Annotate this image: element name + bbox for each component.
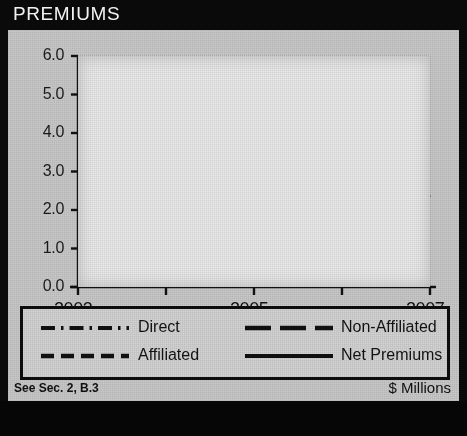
legend: DirectNon-AffiliatedAffiliatedNet Premiu… bbox=[20, 306, 450, 380]
y-axis-tick-label: 1.0 bbox=[16, 239, 64, 257]
legend-label-direct: Direct bbox=[138, 318, 180, 336]
footer-units: $ Millions bbox=[388, 379, 451, 396]
plot-region: 0.01.02.03.04.05.06.0200320052007 bbox=[8, 30, 459, 301]
title-bar: PREMIUMS bbox=[0, 0, 467, 30]
y-axis-tick-label: 6.0 bbox=[16, 46, 64, 64]
axis-labels: 0.01.02.03.04.05.06.0200320052007 bbox=[8, 30, 459, 301]
y-axis-tick-label: 0.0 bbox=[16, 277, 64, 295]
chart-body: 0.01.02.03.04.05.06.0200320052007 Direct… bbox=[8, 30, 459, 401]
y-axis-tick-label: 4.0 bbox=[16, 123, 64, 141]
footer: See Sec. 2, B.3 $ Millions bbox=[8, 379, 459, 401]
legend-label-non-affiliated: Non-Affiliated bbox=[341, 318, 437, 336]
footer-reference: See Sec. 2, B.3 bbox=[14, 381, 99, 395]
bottom-border bbox=[0, 401, 467, 436]
chart-title: PREMIUMS bbox=[13, 3, 120, 25]
frame-right-border bbox=[459, 30, 467, 401]
frame-left-border bbox=[0, 30, 8, 401]
y-axis-tick-label: 5.0 bbox=[16, 85, 64, 103]
chart-figure: PREMIUMS 0.01.02.03.04.05.06.02003200520… bbox=[0, 0, 467, 436]
legend-label-affiliated: Affiliated bbox=[138, 346, 199, 364]
legend-label-net-premiums: Net Premiums bbox=[341, 346, 442, 364]
y-axis-tick-label: 2.0 bbox=[16, 200, 64, 218]
y-axis-tick-label: 3.0 bbox=[16, 162, 64, 180]
